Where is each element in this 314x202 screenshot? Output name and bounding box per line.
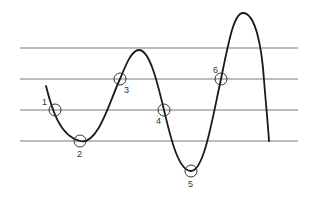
point-label: 1 [42, 97, 47, 107]
point-label: 5 [188, 179, 193, 189]
point-label: 4 [156, 116, 161, 126]
point-label: 2 [77, 149, 82, 159]
point-label: 3 [124, 85, 129, 95]
wave-diagram: 123456 [0, 0, 314, 202]
point-label: 6 [213, 65, 218, 75]
crossing-markers: 123456 [42, 65, 227, 189]
